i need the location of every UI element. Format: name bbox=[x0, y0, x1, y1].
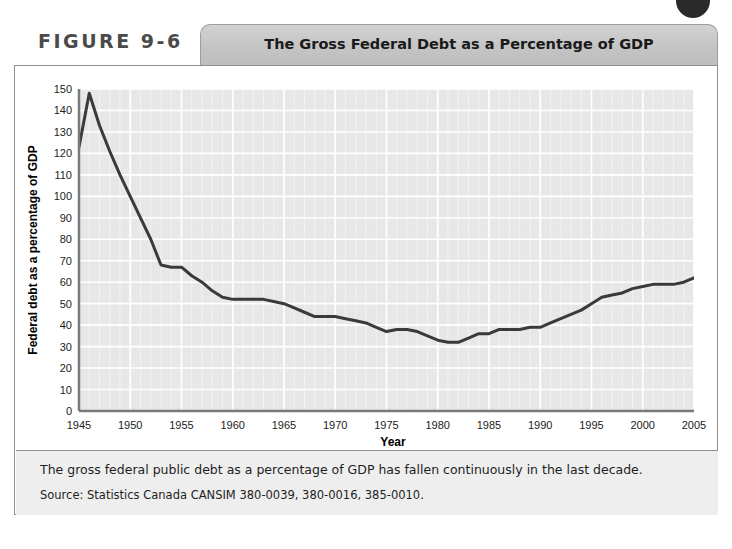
figure-header: FIGURE 9-6 The Gross Federal Debt as a P… bbox=[14, 24, 718, 66]
svg-text:90: 90 bbox=[60, 212, 72, 224]
chart-area: 0102030405060708090100110120130140150 19… bbox=[15, 66, 719, 451]
svg-text:1950: 1950 bbox=[118, 419, 142, 431]
svg-text:2000: 2000 bbox=[631, 419, 655, 431]
svg-text:110: 110 bbox=[54, 169, 72, 181]
figure-title: The Gross Federal Debt as a Percentage o… bbox=[201, 36, 717, 52]
svg-text:60: 60 bbox=[60, 276, 72, 288]
x-axis-tick-labels: 1945195019551960196519701975198019851990… bbox=[67, 419, 706, 431]
svg-text:1990: 1990 bbox=[528, 419, 552, 431]
figure-box: 0102030405060708090100110120130140150 19… bbox=[14, 65, 718, 515]
figure-label: FIGURE 9-6 bbox=[38, 30, 183, 52]
svg-text:1970: 1970 bbox=[323, 419, 347, 431]
svg-text:30: 30 bbox=[60, 341, 72, 353]
svg-text:130: 130 bbox=[54, 126, 72, 138]
svg-text:70: 70 bbox=[60, 255, 72, 267]
svg-text:140: 140 bbox=[54, 104, 72, 116]
x-axis-title: Year bbox=[380, 435, 406, 449]
figure-footer: The gross federal public debt as a perce… bbox=[16, 450, 718, 515]
svg-text:120: 120 bbox=[54, 147, 72, 159]
svg-text:1955: 1955 bbox=[169, 419, 193, 431]
page-number-marker bbox=[676, 0, 710, 18]
line-chart: 0102030405060708090100110120130140150 19… bbox=[15, 66, 719, 451]
svg-text:1980: 1980 bbox=[426, 419, 450, 431]
figure-source: Source: Statistics Canada CANSIM 380-003… bbox=[40, 488, 424, 502]
svg-text:1985: 1985 bbox=[477, 419, 501, 431]
svg-text:10: 10 bbox=[60, 384, 72, 396]
figure-title-tab: The Gross Federal Debt as a Percentage o… bbox=[200, 24, 718, 66]
figure-caption: The gross federal public debt as a perce… bbox=[40, 462, 643, 477]
svg-text:20: 20 bbox=[60, 362, 72, 374]
svg-text:40: 40 bbox=[60, 319, 72, 331]
svg-text:2005: 2005 bbox=[682, 419, 706, 431]
svg-text:150: 150 bbox=[54, 83, 72, 95]
svg-text:100: 100 bbox=[54, 190, 72, 202]
svg-text:1960: 1960 bbox=[221, 419, 245, 431]
y-axis-tick-labels: 0102030405060708090100110120130140150 bbox=[54, 83, 72, 417]
svg-text:50: 50 bbox=[60, 298, 72, 310]
svg-text:1945: 1945 bbox=[67, 419, 91, 431]
y-axis-title: Federal debt as a percentage of GDP bbox=[26, 145, 40, 354]
svg-text:1995: 1995 bbox=[579, 419, 603, 431]
svg-text:0: 0 bbox=[66, 405, 72, 417]
svg-text:1975: 1975 bbox=[374, 419, 398, 431]
svg-text:80: 80 bbox=[60, 233, 72, 245]
svg-text:1965: 1965 bbox=[272, 419, 296, 431]
